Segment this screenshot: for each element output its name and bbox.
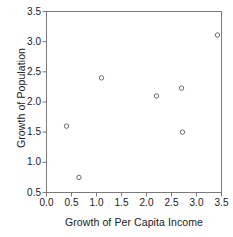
x-tick-label: 2.5 <box>159 198 185 208</box>
y-axis-ticks <box>43 12 47 193</box>
scatter-chart: 0.51.01.52.02.53.03.5 0.00.51.01.52.02.5… <box>0 0 232 237</box>
x-tick-label: 1.5 <box>109 198 135 208</box>
x-tick-label: 0.5 <box>59 198 85 208</box>
x-tick-label: 0.0 <box>34 198 60 208</box>
x-tick-label: 3.0 <box>184 198 210 208</box>
x-tick-label: 3.5 <box>209 198 233 208</box>
x-tick-label: 1.0 <box>84 198 110 208</box>
y-axis-title: Growth of Population <box>13 2 29 194</box>
x-axis-tick-labels: 0.00.51.01.52.02.53.03.5 <box>0 198 232 212</box>
plot-frame <box>47 12 222 193</box>
x-tick-label: 2.0 <box>134 198 160 208</box>
x-axis-title: Growth of Per Capita Income <box>46 216 222 228</box>
x-axis-ticks <box>47 193 222 197</box>
